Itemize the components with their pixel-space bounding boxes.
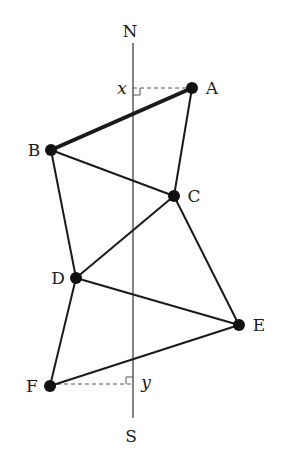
- right-angle-marker-x: [133, 88, 140, 95]
- projection-label-x: x: [117, 78, 127, 98]
- right-angle-marker-y: [126, 377, 133, 384]
- node-b: [45, 144, 57, 156]
- edge-b-d: [51, 150, 76, 278]
- label-c: C: [187, 186, 200, 206]
- label-b: B: [28, 140, 41, 160]
- node-d: [70, 272, 82, 284]
- node-a: [186, 82, 198, 94]
- projection-label-y: y: [140, 372, 151, 392]
- node-e: [233, 319, 245, 331]
- edge-c-d: [76, 196, 174, 278]
- node-c: [168, 190, 180, 202]
- label-e: E: [253, 315, 265, 335]
- nodes: [44, 82, 245, 392]
- edge-d-e: [76, 278, 239, 325]
- edge-d-f: [50, 278, 76, 386]
- edge-b-c: [51, 150, 174, 196]
- label-f: F: [26, 376, 38, 396]
- edge-c-e: [174, 196, 239, 325]
- node-f: [44, 380, 56, 392]
- route-diagram: N S x y A B C D E F: [0, 0, 286, 460]
- north-label: N: [123, 21, 138, 41]
- edge-a-c: [174, 88, 192, 196]
- label-a: A: [205, 78, 219, 98]
- label-d: D: [51, 268, 65, 288]
- edges: [50, 88, 239, 386]
- south-label: S: [125, 426, 137, 446]
